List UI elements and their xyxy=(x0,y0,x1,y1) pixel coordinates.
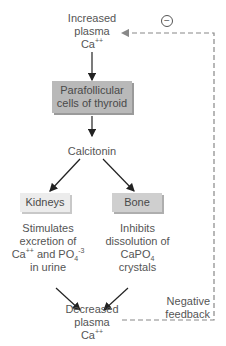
kidney-effect-line1: Stimulates xyxy=(8,222,88,235)
kidney-effect-po: and PO xyxy=(34,248,74,260)
decreased-line1: Decreased xyxy=(52,303,132,316)
parafollicular-line1: Parafollicular xyxy=(57,84,127,97)
decreased-sup: ++ xyxy=(95,328,103,335)
increased-line1: Increased xyxy=(52,12,132,25)
kidney-effect-text: Stimulates excretion of Ca++ and PO4-3 i… xyxy=(8,222,88,274)
kidney-effect-ca: Ca xyxy=(12,248,26,260)
decreased-line2: plasma xyxy=(52,316,132,329)
bone-effect-line2: dissolution of xyxy=(100,235,175,248)
bone-effect-line3: CaPO xyxy=(121,248,151,260)
bone-effect-line4: crystals xyxy=(100,261,175,274)
node-kidneys: Kidneys xyxy=(20,193,70,212)
node-parafollicular-cells: Parafollicular cells of thyroid xyxy=(52,81,132,113)
feedback-line2: feedback xyxy=(160,308,210,321)
node-calcitonin: Calcitonin xyxy=(52,145,132,158)
circle-minus-symbol: − xyxy=(161,14,173,27)
feedback-line1: Negative xyxy=(160,295,210,308)
increased-line3: Ca xyxy=(81,38,95,50)
increased-line2: plasma xyxy=(52,25,132,38)
arrow-calcitonin-to-kidneys xyxy=(50,159,80,191)
kidney-effect-po-sub: 4 xyxy=(74,255,78,262)
node-bone: Bone xyxy=(112,193,162,212)
kidney-effect-ca-sup: ++ xyxy=(26,247,34,254)
node-increased-plasma-ca: Increased plasma Ca++ xyxy=(52,12,132,51)
parafollicular-line2: cells of thyroid xyxy=(57,97,127,110)
kidney-effect-po-sup: -3 xyxy=(78,247,84,254)
arrow-calcitonin-to-bone xyxy=(103,159,134,191)
bone-effect-text: Inhibits dissolution of CaPO4 crystals xyxy=(100,222,175,274)
decreased-line3: Ca xyxy=(81,329,95,341)
kidney-effect-line2: excretion of xyxy=(8,235,88,248)
node-decreased-plasma-ca: Decreased plasma Ca++ xyxy=(52,303,132,342)
bone-effect-line1: Inhibits xyxy=(100,222,175,235)
feedback-dashed-line xyxy=(122,33,214,320)
increased-sup: ++ xyxy=(95,37,103,44)
kidney-effect-line4: in urine xyxy=(8,261,88,274)
negative-feedback-label: Negative feedback xyxy=(160,295,210,321)
